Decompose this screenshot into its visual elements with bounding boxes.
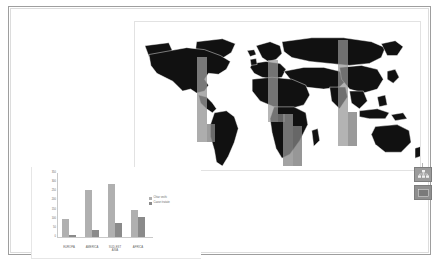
map-bar-america-series1: [197, 57, 207, 142]
legend-item: Cazuri tratate: [149, 202, 170, 205]
y-tick-label: 150: [52, 208, 58, 211]
bar-group-america: [85, 190, 99, 237]
chart-legend: Chiar vechi Cazuri tratate: [149, 197, 170, 205]
bar-america-series1: [85, 190, 92, 237]
legend-swatch-series2: [149, 202, 152, 205]
bar-africa-series2: [138, 217, 145, 237]
bar-chart-panel[interactable]: 350 300 250 200 150 100 50 0 EUROPA AMER…: [31, 167, 201, 259]
toolbar-connector-line: [422, 163, 423, 167]
world-map-panel[interactable]: [134, 21, 421, 171]
y-tick-label: 0: [55, 236, 58, 239]
org-chart-glyph: [418, 170, 429, 179]
bar-america-series2: [92, 230, 99, 237]
legend-swatch-series1: [149, 197, 152, 200]
y-tick-label: 300: [52, 181, 58, 184]
chart-x-axis: [57, 237, 153, 238]
x-tick-label-europa: EUROPA: [58, 246, 80, 249]
color-swatch-icon[interactable]: [414, 185, 432, 200]
swatch-glyph: [418, 189, 429, 197]
y-tick-label: 350: [52, 172, 58, 175]
x-tick-label-africa: AFRICA: [127, 246, 149, 249]
map-bar-sudest-asia-series1: [338, 40, 348, 146]
chart-plot-area: 350 300 250 200 150 100 50 0 EUROPA AMER…: [58, 173, 152, 237]
map-bar-africa-series1: [283, 114, 293, 166]
bar-sudest-asia-series2: [115, 223, 122, 237]
bar-sudest-asia-series1: [108, 184, 115, 237]
slide-canvas: 350 300 250 200 150 100 50 0 EUROPA AMER…: [8, 6, 431, 255]
bar-group-africa: [131, 210, 145, 237]
legend-item: Chiar vechi: [149, 197, 170, 200]
map-bar-sudest-asia-series2: [348, 112, 357, 146]
bar-group-europa: [62, 219, 76, 237]
y-tick-label: 100: [52, 217, 58, 220]
organization-chart-icon[interactable]: [414, 167, 432, 182]
x-tick-label-america: AMERICA: [81, 246, 103, 249]
map-bar-europa-series1: [268, 60, 278, 122]
x-tick-label-sudest-asia: SUD-EST ASIA: [104, 246, 126, 252]
bar-group-sudest-asia: [108, 184, 122, 237]
legend-label-series2: Cazuri tratate: [154, 202, 170, 205]
y-tick-label: 250: [52, 190, 58, 193]
map-bar-africa-series2: [293, 126, 302, 166]
bar-africa-series1: [131, 210, 138, 237]
y-tick-label: 200: [52, 199, 58, 202]
bar-europa-series1: [62, 219, 69, 237]
bar-europa-series2: [69, 235, 76, 237]
y-tick-label: 50: [53, 227, 58, 230]
legend-label-series1: Chiar vechi: [154, 197, 167, 200]
side-toolbar[interactable]: [413, 167, 433, 200]
map-bar-america-series2: [207, 124, 215, 142]
